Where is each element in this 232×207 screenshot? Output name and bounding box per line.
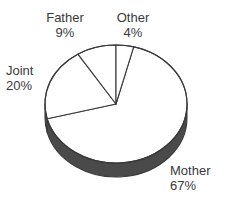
slice-label-joint: Joint 20% (6, 63, 58, 93)
slice-label-father-name: Father (36, 10, 94, 25)
slice-label-mother-value: 67% (170, 178, 230, 193)
slice-label-father-value: 9% (36, 25, 94, 40)
pie-geometry (45, 45, 187, 177)
slice-label-other: Other 4% (108, 10, 158, 40)
slice-label-other-name: Other (108, 10, 158, 25)
slice-label-mother-name: Mother (170, 163, 230, 178)
slice-label-other-value: 4% (108, 25, 158, 40)
slice-label-joint-name: Joint (6, 63, 58, 78)
pie-chart-figure: Father 9% Other 4% Joint 20% Mother 67% (0, 0, 232, 207)
slice-label-father: Father 9% (36, 10, 94, 40)
slice-label-mother: Mother 67% (170, 163, 230, 193)
slice-label-joint-value: 20% (6, 78, 58, 93)
